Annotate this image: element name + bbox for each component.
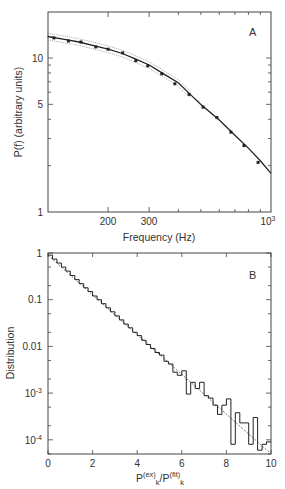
- data-point: [173, 82, 176, 85]
- panel-a-confidence-band: [48, 33, 191, 98]
- data-point: [215, 116, 218, 119]
- x-title-sup1: (ex): [143, 470, 156, 479]
- data-point: [257, 161, 260, 164]
- data-point: [188, 93, 191, 96]
- data-point: [202, 106, 205, 109]
- x-title-sup2: (fit): [170, 470, 181, 479]
- panel-a-xtick-200: 200: [100, 216, 117, 227]
- data-point: [52, 36, 55, 39]
- panel-b-ytick-1e-3-base: 10: [25, 388, 37, 399]
- panel-a-y-ticks: [48, 58, 271, 166]
- figure: A 10 5 1 200 300 103 Frequency (Hz) P(f)…: [0, 0, 285, 489]
- data-point: [107, 48, 110, 51]
- confidence-band-line: [48, 40, 191, 98]
- panel-a-ytick-5: 5: [37, 99, 43, 110]
- panel-b-ytick-0.1: 0.1: [28, 294, 42, 305]
- panel-a-xtick-1000-exp: 3: [272, 215, 276, 222]
- panel-b-ytick-1e-3-exp: -3: [36, 387, 42, 394]
- panel-a-label: A: [249, 26, 257, 38]
- panel-b-x-axis-title: P(ex)k/P(fit)k: [136, 470, 184, 487]
- panel-b-ytick-1e-4: 10-4: [25, 434, 42, 446]
- data-point: [67, 40, 70, 43]
- x-title-slash: /P: [160, 472, 170, 484]
- panel-b-label: B: [249, 269, 256, 281]
- panel-a-xtick-300: 300: [141, 216, 158, 227]
- x-tick-label: 4: [134, 458, 140, 469]
- panel-a-ytick-1: 1: [37, 207, 43, 218]
- panel-a-ytick-10: 10: [32, 53, 44, 64]
- panel-a: A 10 5 1 200 300 103 Frequency (Hz) P(f)…: [12, 12, 276, 243]
- panel-a-y-axis-title: P(f) (arbitrary units): [12, 67, 24, 157]
- panel-b-ytick-1e-3: 10-3: [25, 387, 42, 399]
- data-point: [134, 59, 137, 62]
- data-point: [121, 51, 124, 54]
- data-point: [146, 64, 149, 67]
- data-point: [243, 144, 246, 147]
- panel-a-x-axis-title: Frequency (Hz): [123, 231, 195, 243]
- x-tick-label: 10: [265, 458, 277, 469]
- panel-a-data-points: [52, 36, 259, 163]
- panel-b-ytick-1e-4-base: 10: [25, 435, 37, 446]
- panel-a-x-ticks: [108, 12, 260, 212]
- panel-b: B 1 0.1 0.01 10-3 10-4 0246810 P(ex)k/P(…: [4, 248, 277, 487]
- panel-b-x-tick-labels: 0246810: [45, 458, 277, 469]
- panel-a-xtick-1000-base: 10: [260, 216, 272, 227]
- panel-a-xtick-1000: 103: [260, 215, 275, 227]
- data-point: [80, 41, 83, 44]
- panel-b-y-axis-title: Distribution: [4, 327, 16, 380]
- x-title-p1: P: [136, 472, 143, 484]
- x-tick-label: 2: [90, 458, 96, 469]
- panel-b-ytick-0.01: 0.01: [23, 341, 43, 352]
- panel-b-ytick-1: 1: [36, 248, 42, 259]
- panel-b-ytick-1e-4-exp: -4: [36, 434, 42, 441]
- data-point: [94, 45, 97, 48]
- data-point: [160, 72, 163, 75]
- x-tick-label: 0: [45, 458, 51, 469]
- x-tick-label: 6: [179, 458, 185, 469]
- panel-b-histogram: [48, 255, 271, 450]
- x-tick-label: 8: [224, 458, 230, 469]
- data-point: [229, 131, 232, 134]
- panel-a-fit-line: [48, 37, 271, 174]
- x-title-sub2: k: [180, 478, 184, 487]
